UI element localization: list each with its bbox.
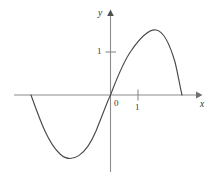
graph-figure: y x 0 1 1	[0, 0, 213, 180]
y-axis-arrowhead	[107, 10, 114, 17]
origin-label: 0	[114, 99, 119, 108]
x-tick-label-1: 1	[135, 103, 140, 112]
plot-canvas	[0, 0, 213, 180]
y-tick-label-1: 1	[97, 47, 102, 56]
x-axis-label: x	[200, 100, 204, 110]
y-axis-label: y	[98, 9, 102, 19]
x-axis-arrowhead	[196, 92, 203, 99]
curve-path	[31, 30, 182, 159]
